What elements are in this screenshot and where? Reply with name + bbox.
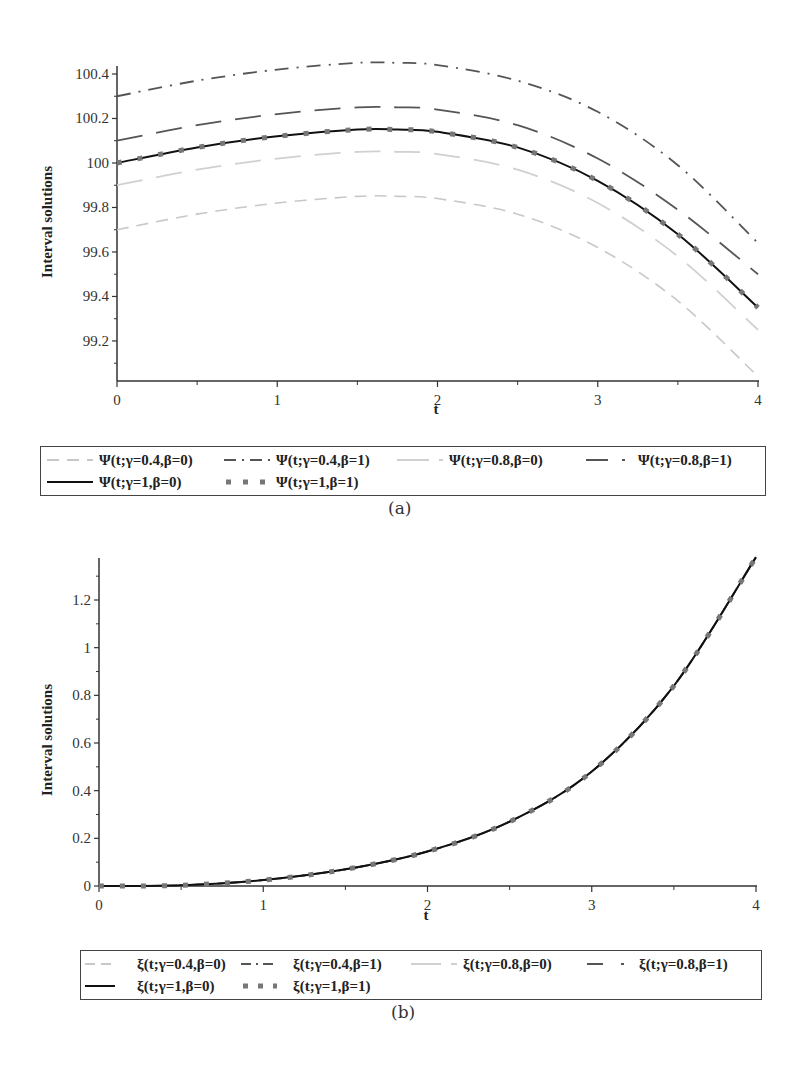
longdash-line-icon [586,455,632,465]
series-line [117,151,758,330]
legend-label: Ψ(t;γ=0.8,β=0) [449,452,543,469]
legend-label: ξ(t;γ=1,β=0) [137,978,214,995]
x-tick-label: 0 [95,897,103,913]
legend-label: ξ(t;γ=0.4,β=0) [137,956,226,973]
y-tick-label: 99.4 [83,288,110,304]
series-line [99,557,756,886]
legend-item: ξ(t;γ=0.8,β=0) [411,953,552,975]
caption-a: (a) [388,498,411,518]
y-axis-title: Interval solutions [39,684,55,796]
y-tick-label: 1 [84,640,92,656]
legend-label: Ψ(t;γ=1,β=0) [99,474,181,491]
legend-item: ξ(t;γ=1,β=1) [241,975,370,997]
legend-b: ξ(t;γ=0.4,β=0) ξ(t;γ=0.4,β=1) ξ(t;γ=0.8,… [80,950,762,1000]
dashdot-line-icon [224,455,270,465]
legend-a: Ψ(t;γ=0.4,β=0) Ψ(t;γ=0.4,β=1) Ψ(t;γ=0.8,… [40,446,766,496]
series-line [99,557,756,886]
y-tick-label: 0 [84,878,92,894]
legend-label: Ψ(t;γ=0.4,β=1) [276,452,370,469]
y-tick-label: 1.2 [72,592,91,608]
y-tick-label: 0.8 [72,687,91,703]
longdash-line-icon [411,959,457,969]
caption-b: (b) [391,1002,415,1022]
series-line [99,557,756,886]
series-line [99,557,756,886]
y-tick-label: 100 [87,155,110,171]
x-tick-label: 1 [260,897,268,913]
legend-item: Ψ(t;γ=1,β=1) [224,471,358,493]
legend-label: Ψ(t;γ=0.8,β=1) [638,452,732,469]
legend-item: Ψ(t;γ=0.4,β=0) [47,449,193,471]
x-axis-title: t [424,907,429,923]
y-axis-title: Interval solutions [39,166,55,278]
y-tick-label: 0.6 [72,735,91,751]
x-tick-label: 3 [588,897,596,913]
y-tick-label: 0.4 [72,783,91,799]
dashdot-line-icon [241,959,287,969]
x-tick-label: 4 [754,392,762,408]
legend-item: Ψ(t;γ=0.8,β=0) [397,449,543,471]
legend-label: Ψ(t;γ=1,β=1) [276,474,358,491]
x-tick-label: 0 [113,392,121,408]
legend-item: Ψ(t;γ=1,β=0) [47,471,181,493]
x-tick-label: 1 [274,392,282,408]
legend-label: ξ(t;γ=0.8,β=0) [463,956,552,973]
solid-line-icon [85,981,131,991]
legend-item: ξ(t;γ=0.8,β=1) [587,953,728,975]
series-line [117,129,758,308]
longdash-line-icon [587,959,633,969]
x-tick-label: 4 [752,897,760,913]
series-line [99,557,756,886]
data-series [99,557,756,886]
y-ticks: 00.20.40.60.811.2 [72,576,99,894]
figure-b: 00.20.40.60.811.2 01234 Interval solutio… [0,520,801,1000]
y-tick-label: 100.2 [75,110,109,126]
longdash-line-icon [397,455,443,465]
legend-item: ξ(t;γ=0.4,β=1) [241,953,382,975]
y-tick-label: 100.4 [75,66,109,82]
y-tick-label: 99.6 [83,244,110,260]
x-axis-title: t [434,401,439,417]
data-series [117,62,758,376]
chart-a-plot: 99.299.499.699.8100100.2100.4 01234 Inte… [0,0,801,520]
legend-item: ξ(t;γ=0.4,β=0) [85,953,226,975]
y-ticks: 99.299.499.699.8100100.2100.4 [75,66,117,363]
legend-label: Ψ(t;γ=0.4,β=0) [99,452,193,469]
y-tick-label: 99.8 [83,199,109,215]
chart-b-plot: 00.20.40.60.811.2 01234 Interval solutio… [0,520,801,1000]
legend-item: Ψ(t;γ=0.4,β=1) [224,449,370,471]
legend-label: ξ(t;γ=1,β=1) [293,978,370,995]
legend-item: Ψ(t;γ=0.8,β=1) [586,449,732,471]
y-tick-label: 99.2 [83,333,109,349]
legend-item: ξ(t;γ=1,β=0) [85,975,214,997]
dotted-line-icon [241,981,287,991]
dash-line-icon [85,959,131,969]
series-line [99,557,756,886]
figure-a: 99.299.499.699.8100100.2100.4 01234 Inte… [0,0,801,520]
x-tick-label: 3 [594,392,602,408]
dotted-line-icon [224,477,270,487]
y-tick-label: 0.2 [72,830,91,846]
solid-line-icon [47,477,93,487]
series-line [117,129,758,308]
legend-label: ξ(t;γ=0.4,β=1) [293,956,382,973]
series-line [117,62,758,243]
dash-line-icon [47,455,93,465]
legend-label: ξ(t;γ=0.8,β=1) [639,956,728,973]
